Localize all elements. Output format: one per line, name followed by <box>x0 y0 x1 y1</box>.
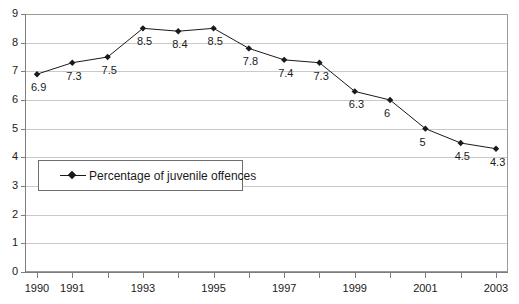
data-point-label: 7.5 <box>102 65 117 76</box>
gridline <box>26 129 507 130</box>
x-axis-tick-label: 1991 <box>52 282 92 294</box>
x-axis-tick <box>178 273 179 278</box>
y-axis-tick <box>21 215 25 216</box>
gridline <box>26 157 507 158</box>
y-axis-tick <box>21 43 25 44</box>
y-axis-tick <box>21 186 25 187</box>
y-axis-tick <box>21 100 25 101</box>
x-axis-tick <box>496 273 497 278</box>
x-axis-tick <box>214 273 215 278</box>
x-axis-tick <box>37 273 38 278</box>
data-point-label: 6.3 <box>349 99 364 110</box>
y-axis-tick-label: 2 <box>2 209 18 220</box>
x-axis-tick-label: 1999 <box>335 282 375 294</box>
y-axis-tick <box>21 14 25 15</box>
data-point-label: 6 <box>384 108 390 119</box>
y-axis-tick-label: 9 <box>2 8 18 19</box>
data-point-label: 5 <box>419 137 425 148</box>
gridline <box>26 215 507 216</box>
x-axis-tick <box>390 273 391 278</box>
x-axis-tick-label: 1993 <box>123 282 163 294</box>
x-axis-tick <box>249 273 250 278</box>
y-axis-tick-label: 8 <box>2 37 18 48</box>
y-axis-tick-label: 4 <box>2 151 18 162</box>
plot-area <box>25 14 508 272</box>
legend-diamond-icon <box>68 170 76 178</box>
x-axis-tick <box>319 273 320 278</box>
y-axis-tick-label: 3 <box>2 180 18 191</box>
y-axis-tick <box>21 129 25 130</box>
x-axis-tick-label: 2003 <box>476 282 516 294</box>
y-axis-tick <box>21 243 25 244</box>
y-axis-tick-label: 6 <box>2 94 18 105</box>
x-axis-tick <box>72 273 73 278</box>
x-axis-tick <box>284 273 285 278</box>
data-point-label: 8.4 <box>172 39 187 50</box>
y-axis-tick-label: 0 <box>2 266 18 277</box>
x-axis-tick <box>425 273 426 278</box>
y-axis-tick-label: 5 <box>2 123 18 134</box>
data-point-label: 4.5 <box>455 151 470 162</box>
gridline <box>26 100 507 101</box>
x-axis-tick-label: 1997 <box>264 282 304 294</box>
legend-marker-icon <box>60 170 86 181</box>
data-point-label: 4.3 <box>490 157 505 168</box>
data-point-label: 8.5 <box>208 36 223 47</box>
x-axis-tick <box>461 273 462 278</box>
x-axis-tick-label: 1995 <box>194 282 234 294</box>
legend-label: Percentage of juvenile offences <box>86 169 256 183</box>
x-axis-tick <box>108 273 109 278</box>
y-axis-tick-label: 7 <box>2 65 18 76</box>
data-point-label: 8.5 <box>137 36 152 47</box>
gridline <box>26 243 507 244</box>
data-point-label: 7.8 <box>243 56 258 67</box>
data-point-label: 6.9 <box>31 82 46 93</box>
gridline <box>26 43 507 44</box>
data-point-label: 7.4 <box>278 68 293 79</box>
data-point-label: 7.3 <box>313 71 328 82</box>
line-chart: 0123456789 19901991199319951997199920012… <box>0 0 519 304</box>
y-axis-tick <box>21 157 25 158</box>
x-axis-tick <box>143 273 144 278</box>
legend: Percentage of juvenile offences <box>38 160 243 191</box>
legend-entry: Percentage of juvenile offences <box>39 161 242 190</box>
data-point-label: 7.3 <box>66 71 81 82</box>
x-axis-line <box>25 272 508 273</box>
y-axis-tick <box>21 71 25 72</box>
x-axis-tick-label: 2001 <box>405 282 445 294</box>
gridline <box>26 71 507 72</box>
y-axis-line <box>25 14 26 273</box>
x-axis-tick <box>355 273 356 278</box>
x-axis-tick-label: 1990 <box>17 282 57 294</box>
y-axis-tick-label: 1 <box>2 237 18 248</box>
